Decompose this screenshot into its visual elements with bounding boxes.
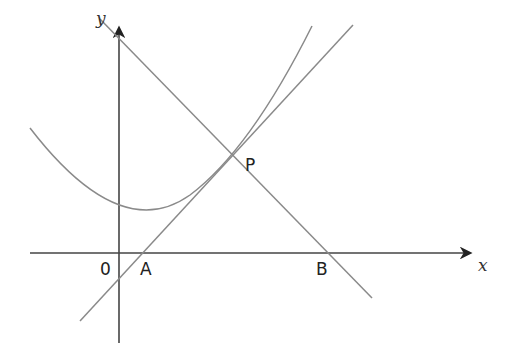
point-a-label: A bbox=[140, 259, 152, 279]
tangent-line-ap bbox=[80, 25, 353, 321]
origin-label: 0 bbox=[100, 259, 111, 279]
parabola-curve bbox=[30, 26, 312, 210]
point-p-label: P bbox=[245, 155, 255, 175]
x-axis-label: x bbox=[478, 255, 488, 275]
y-axis-label: y bbox=[96, 8, 106, 28]
point-b-label: B bbox=[316, 259, 328, 279]
diagram-canvas bbox=[0, 0, 509, 358]
